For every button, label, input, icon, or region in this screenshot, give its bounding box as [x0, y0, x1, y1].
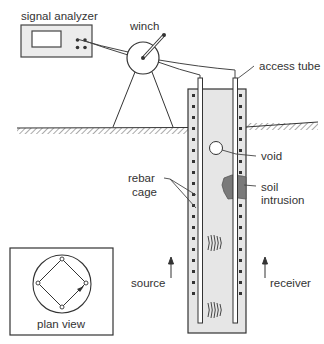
- soil-intrusion-label-line2: intrusion: [261, 194, 304, 207]
- arrow-up-icon: [263, 257, 268, 278]
- signal-analyzer-icon: [21, 25, 92, 57]
- soil-intrusion-label-line1: soil: [261, 181, 278, 194]
- rebar-cage-label-line1: rebar: [128, 172, 155, 185]
- source-label: source: [131, 277, 166, 290]
- access-tube-label: access tube: [259, 60, 320, 73]
- winch-label: winch: [130, 20, 159, 33]
- arrow-up-icon: [169, 257, 174, 278]
- receiver-label: receiver: [270, 277, 311, 290]
- void: [210, 142, 223, 155]
- signal-analyzer-label: signal analyzer: [21, 10, 98, 23]
- cable: [158, 60, 235, 79]
- ground-surface: [17, 122, 318, 134]
- plan-view-label: plan view: [37, 318, 85, 331]
- winch-icon: [113, 33, 173, 127]
- rebar-cage-label-line2: cage: [132, 186, 157, 199]
- crosshole-sonic-logging-diagram: [0, 0, 324, 344]
- void-label: void: [261, 150, 282, 163]
